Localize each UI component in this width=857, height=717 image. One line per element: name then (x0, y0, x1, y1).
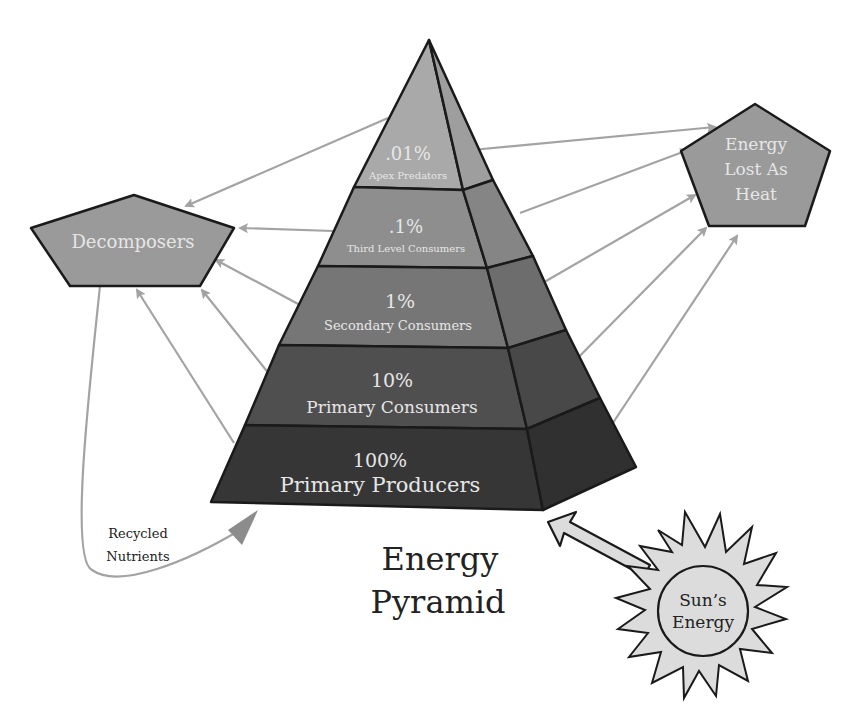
heat-label-line1: Energy (725, 134, 787, 154)
third-name: Third Level Consumers (347, 243, 465, 254)
apex-percent: .01% (385, 143, 431, 164)
title-line2: Pyramid (370, 583, 505, 621)
arrow-primary-consumers-to-heat (561, 228, 706, 375)
heat-label-line2: Lost As (724, 159, 787, 179)
sun-disc (658, 566, 748, 656)
arrow-secondary-to-decomposers (216, 260, 300, 305)
sun-node: Sun’s Energy (548, 512, 787, 698)
third-percent: .1% (389, 216, 423, 237)
primary-consumers-percent: 10% (371, 369, 413, 391)
primary-consumers-name: Primary Consumers (306, 397, 477, 417)
recycled-line2: Nutrients (106, 549, 169, 564)
recycled-nutrients-label: Recycled Nutrients (106, 526, 169, 564)
energy-lost-as-heat-node: Energy Lost As Heat (681, 104, 830, 226)
diagram-title: Energy Pyramid (370, 540, 505, 621)
title-line1: Energy (382, 540, 499, 578)
secondary-percent: 1% (385, 290, 415, 312)
producers-percent: 100% (353, 449, 407, 471)
arrow-third-to-heat (520, 150, 688, 213)
decomposers-label: Decomposers (71, 231, 194, 252)
energy-pyramid-diagram: .01% Apex Predators .1% Third Level Cons… (0, 0, 857, 717)
arrow-secondary-to-heat (527, 195, 695, 292)
producers-name: Primary Producers (280, 473, 481, 497)
apex-name: Apex Predators (368, 170, 447, 181)
decomposers-node: Decomposers (31, 195, 234, 286)
sun-label-line2: Energy (672, 612, 734, 632)
heat-label-line3: Heat (735, 184, 777, 204)
pyramid (211, 40, 636, 510)
arrow-apex-to-heat (472, 127, 715, 150)
recycled-line1: Recycled (108, 526, 168, 541)
arrow-primary-consumers-to-decomposers (202, 290, 270, 375)
secondary-name: Secondary Consumers (324, 318, 472, 333)
arrow-third-to-decomposers (240, 228, 333, 231)
sun-label-line1: Sun’s (679, 590, 727, 610)
recycled-arrowhead-icon (228, 510, 258, 545)
